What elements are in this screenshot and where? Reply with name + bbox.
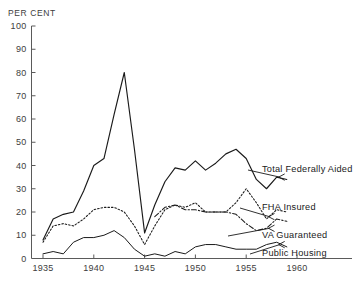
y-tick-label: 30: [16, 184, 27, 194]
y-tick-label: 90: [16, 44, 27, 54]
y-axis-title: PER CENT: [8, 8, 56, 18]
annotation-arrow-icon: [279, 174, 285, 180]
series-label-va-guaranteed: VA Guaranteed: [262, 230, 327, 240]
y-tick-label: 40: [16, 161, 27, 171]
series-label-fha-insured: FHA Insured: [262, 202, 316, 212]
y-tick-label: 50: [16, 137, 27, 147]
series-label-total-federally-aided: Total Federally Aided: [262, 164, 353, 174]
y-tick-label: 60: [16, 114, 27, 124]
series-group: [43, 73, 287, 257]
line-chart: PER CENT 0102030405060708090100 19351940…: [0, 0, 362, 281]
y-tick-label: 100: [11, 21, 27, 31]
annotation-arrow-icon: [269, 214, 275, 220]
series-line-fha-insured: [43, 189, 287, 245]
x-tick-label: 1960: [286, 263, 307, 273]
y-tick-label: 0: [21, 254, 26, 264]
series-line-public-housing: [43, 231, 287, 257]
y-tick-label: 10: [16, 230, 27, 240]
annotation-group: Total Federally AidedFHA InsuredVA Guara…: [228, 164, 353, 258]
series-line-total-federally-aided: [43, 73, 287, 240]
x-tick-label: 1950: [185, 263, 206, 273]
y-tick-label: 20: [16, 207, 27, 217]
x-tick-label: 1940: [83, 263, 104, 273]
x-tick-label: 1955: [236, 263, 257, 273]
series-label-public-housing: Public Housing: [262, 248, 327, 258]
y-tick-label: 80: [16, 68, 27, 78]
y-tick-label: 70: [16, 91, 27, 101]
x-tick-label: 1945: [134, 263, 155, 273]
chart-container: PER CENT 0102030405060708090100 19351940…: [0, 0, 362, 281]
axes: [32, 26, 353, 259]
x-tick-label: 1935: [32, 263, 53, 273]
